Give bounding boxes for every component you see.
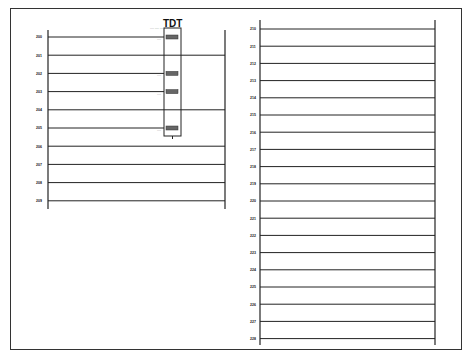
rung-label: 214 bbox=[250, 96, 256, 100]
rung-label: 224 bbox=[250, 268, 256, 272]
ladder-diagram: 200----201202----203----204205----206207… bbox=[0, 0, 469, 359]
pin-label: ---- bbox=[157, 37, 161, 41]
rung-label: 225 bbox=[250, 285, 256, 289]
rung-label: 208 bbox=[36, 181, 42, 185]
rung-label: 226 bbox=[250, 303, 256, 307]
block-pin bbox=[166, 71, 178, 75]
rung-label: 213 bbox=[250, 79, 256, 83]
rung-label: 206 bbox=[36, 145, 42, 149]
rung-label: 219 bbox=[250, 182, 256, 186]
rung-label: 227 bbox=[250, 320, 256, 324]
rung-label: 202 bbox=[36, 72, 42, 76]
pin-label: ---- bbox=[157, 92, 161, 96]
function-block bbox=[164, 28, 181, 136]
block-pin bbox=[166, 35, 178, 39]
rung-label: 211 bbox=[250, 45, 256, 49]
pin-label: ---- bbox=[157, 128, 161, 132]
rung-label: 201 bbox=[36, 54, 42, 58]
rung-label: 205 bbox=[36, 126, 42, 130]
rung-label: 217 bbox=[250, 148, 256, 152]
block-header-text: ---- ---- ---- bbox=[150, 26, 164, 30]
rung-label: 210 bbox=[250, 27, 256, 31]
rung-label: 221 bbox=[250, 217, 256, 221]
rung-label: 218 bbox=[250, 165, 256, 169]
rung-label: 228 bbox=[250, 337, 256, 341]
pin-label: ---- bbox=[157, 73, 161, 77]
rung-label: 209 bbox=[36, 199, 42, 203]
rung-label: 207 bbox=[36, 163, 42, 167]
rung-label: 216 bbox=[250, 131, 256, 135]
rung-label: 203 bbox=[36, 90, 42, 94]
rung-label: 222 bbox=[250, 234, 256, 238]
rung-label: 215 bbox=[250, 113, 256, 117]
block-pin bbox=[166, 90, 178, 94]
block-pin bbox=[166, 126, 178, 130]
rung-label: 204 bbox=[36, 108, 42, 112]
rung-label: 223 bbox=[250, 251, 256, 255]
rung-label: 212 bbox=[250, 62, 256, 66]
block-title: TDT bbox=[163, 18, 182, 29]
rung-label: 200 bbox=[36, 35, 42, 39]
rung-label: 220 bbox=[250, 199, 256, 203]
